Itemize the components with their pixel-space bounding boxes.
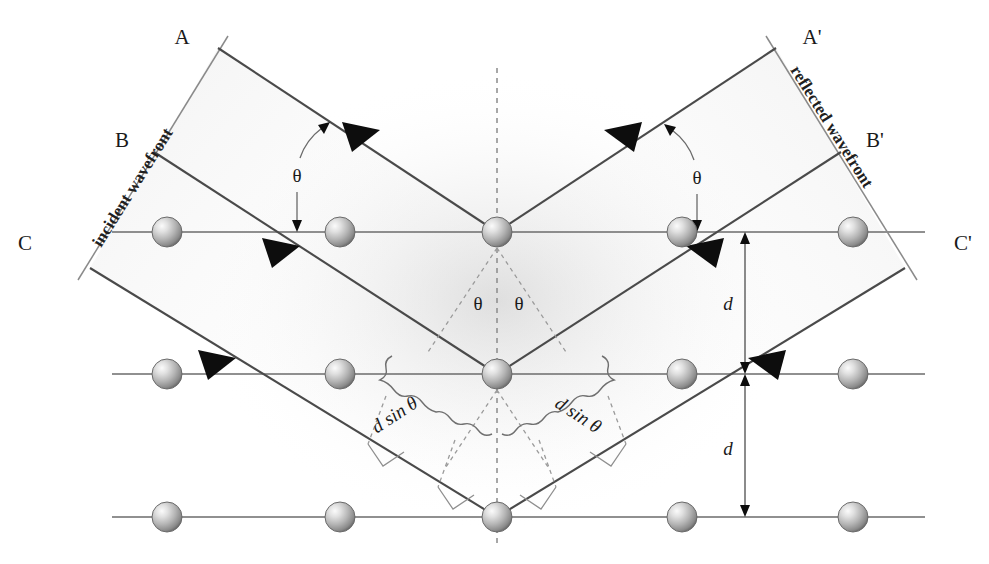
label-spacing-d-lower: d: [723, 438, 733, 459]
atom-sphere: [482, 502, 512, 532]
diagram-canvas: A B C A' B' C' incident wavefront reflec…: [0, 0, 989, 564]
label-ray-a-prime: A': [803, 25, 822, 49]
label-ray-b-prime: B': [866, 128, 884, 152]
atom-sphere: [152, 217, 182, 247]
atom-sphere: [838, 359, 868, 389]
atom-sphere: [482, 359, 512, 389]
label-theta-incident: θ: [292, 165, 301, 186]
label-ray-c: C: [18, 231, 32, 255]
label-theta-reflected: θ: [692, 167, 701, 188]
atom-sphere: [667, 502, 697, 532]
atom-sphere: [325, 359, 355, 389]
label-ray-c-prime: C': [954, 231, 972, 255]
atom-sphere: [838, 217, 868, 247]
atom-sphere: [667, 217, 697, 247]
label-spacing-d-upper: d: [723, 293, 733, 314]
atom-sphere: [838, 502, 868, 532]
label-ray-b: B: [115, 128, 129, 152]
atom-sphere: [152, 502, 182, 532]
atom-sphere: [482, 217, 512, 247]
bragg-diffraction-diagram: A B C A' B' C' incident wavefront reflec…: [0, 0, 989, 564]
atom-sphere: [667, 359, 697, 389]
d-dimension-lower-arrow-bottom: [740, 505, 750, 517]
label-ray-a: A: [174, 25, 190, 49]
atom-sphere: [152, 359, 182, 389]
atom-sphere: [325, 502, 355, 532]
atom-sphere: [325, 217, 355, 247]
label-theta-center-right: θ: [514, 293, 523, 314]
label-theta-center-left: θ: [473, 293, 482, 314]
